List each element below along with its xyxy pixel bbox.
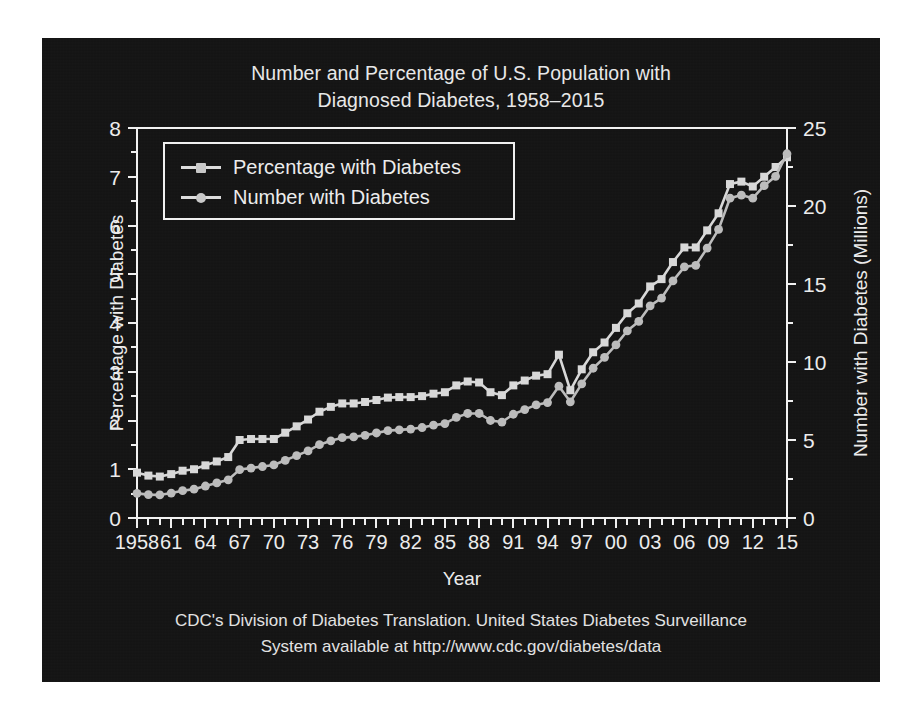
x-minor-tick [706, 518, 708, 525]
data-point-marker [213, 457, 221, 465]
chart-title-line-2: Diagnosed Diabetes, 1958–2015 [42, 87, 880, 114]
x-tick-label: 03 [639, 532, 661, 552]
data-point-marker [623, 326, 632, 335]
data-point-marker [155, 491, 164, 500]
x-minor-tick [695, 518, 697, 525]
data-point-marker [361, 398, 369, 406]
x-minor-tick [604, 518, 606, 525]
data-point-marker [361, 431, 370, 440]
x-minor-tick [672, 518, 674, 525]
data-point-marker [737, 178, 745, 186]
data-point-marker [258, 435, 266, 443]
x-minor-tick [455, 518, 457, 525]
x-tick [547, 518, 549, 528]
data-point-marker [156, 473, 164, 481]
data-point-marker [680, 243, 688, 251]
data-point-marker [224, 453, 232, 461]
data-point-marker [395, 425, 404, 434]
data-point-marker [133, 469, 141, 477]
data-point-marker [212, 479, 221, 488]
x-tick-label: 06 [673, 532, 695, 552]
y-tick-label-right: 10 [803, 352, 826, 373]
data-point-marker [657, 294, 666, 303]
data-point-marker [247, 435, 255, 443]
x-tick [170, 518, 172, 528]
data-point-marker [338, 399, 346, 407]
x-minor-tick [569, 518, 571, 525]
x-minor-tick [387, 518, 389, 525]
x-tick [752, 518, 754, 528]
data-point-marker [566, 397, 575, 406]
y-tick-label-right: 20 [803, 196, 826, 217]
legend-swatch-square-icon [181, 160, 221, 174]
data-point-marker [634, 317, 643, 326]
x-minor-tick [284, 518, 286, 525]
data-point-marker [463, 409, 472, 418]
data-point-marker [452, 381, 460, 389]
data-point-marker [247, 464, 256, 473]
data-point-marker [555, 382, 564, 391]
data-point-marker [703, 244, 712, 253]
x-minor-tick [661, 518, 663, 525]
data-point-marker [144, 472, 152, 480]
x-tick-label: 12 [742, 532, 764, 552]
data-point-marker [179, 467, 187, 475]
x-minor-tick [467, 518, 469, 525]
x-tick [136, 518, 138, 528]
legend-item-number: Number with Diabetes [181, 184, 430, 210]
data-point-marker [486, 416, 495, 425]
x-minor-tick [729, 518, 731, 525]
data-point-marker [418, 423, 427, 432]
x-minor-tick [147, 518, 149, 525]
x-tick-label: 00 [605, 532, 627, 552]
data-point-marker [293, 422, 301, 430]
data-point-marker [714, 225, 723, 234]
x-tick-label: 85 [434, 532, 456, 552]
chart-figure: Number and Percentage of U.S. Population… [42, 38, 880, 682]
x-minor-tick [398, 518, 400, 525]
data-point-marker [315, 408, 323, 416]
data-point-marker [726, 194, 735, 203]
data-point-marker [555, 351, 563, 359]
data-point-marker [760, 173, 768, 181]
y-tick-label-left: 7 [109, 167, 121, 188]
y-tick-right [787, 439, 796, 441]
data-point-marker [532, 401, 541, 410]
x-minor-tick [364, 518, 366, 525]
data-point-marker [304, 447, 313, 456]
data-point-marker [452, 413, 461, 422]
legend-label-number: Number with Diabetes [233, 187, 430, 207]
x-minor-tick [524, 518, 526, 525]
y-tick-label-left: 1 [109, 459, 121, 480]
x-tick-label: 09 [707, 532, 729, 552]
data-point-marker [748, 194, 757, 203]
data-point-marker [235, 465, 244, 474]
x-minor-tick [535, 518, 537, 525]
x-minor-tick [159, 518, 161, 525]
data-point-marker [760, 181, 769, 190]
data-point-marker [304, 416, 312, 424]
data-point-marker [338, 433, 347, 442]
x-tick [683, 518, 685, 528]
data-point-marker [269, 461, 278, 470]
data-point-marker [201, 482, 210, 491]
x-minor-tick [592, 518, 594, 525]
data-point-marker [440, 419, 449, 428]
data-point-marker [418, 392, 426, 400]
data-point-marker [566, 386, 574, 394]
data-point-marker [578, 365, 586, 373]
data-point-marker [441, 388, 449, 396]
data-point-marker [589, 364, 598, 373]
x-tick-label: 88 [468, 532, 490, 552]
data-point-marker [532, 372, 540, 380]
data-point-marker [680, 262, 689, 271]
data-point-marker [167, 489, 176, 498]
data-point-marker [372, 396, 380, 404]
legend-item-percentage: Percentage with Diabetes [181, 154, 461, 180]
y-tick-right [787, 283, 796, 285]
data-point-marker [384, 394, 392, 402]
data-point-marker [144, 490, 153, 499]
data-point-marker [771, 172, 780, 181]
x-tick [307, 518, 309, 528]
data-point-marker [703, 226, 711, 234]
